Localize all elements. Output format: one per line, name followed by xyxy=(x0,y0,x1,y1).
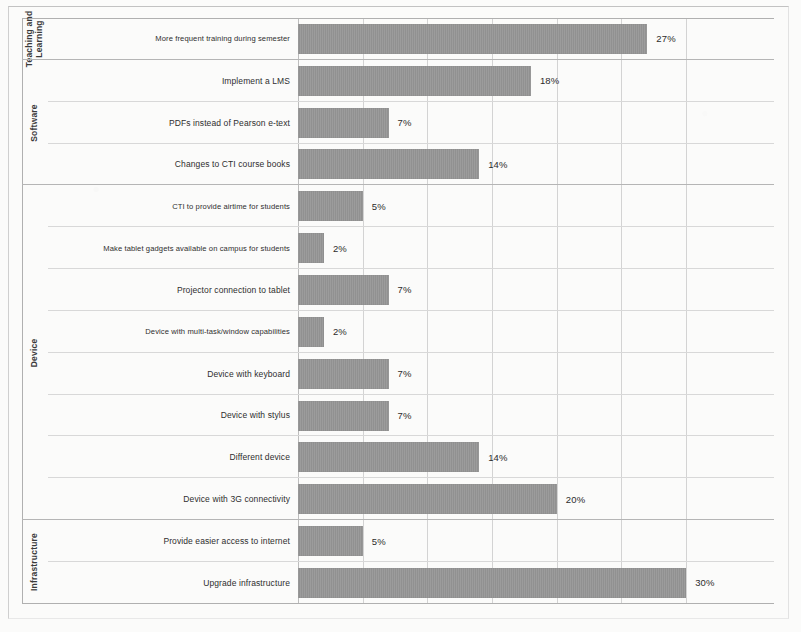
bar-cell: 7% xyxy=(298,353,774,395)
category-label-cell: Upgrade infrastructure xyxy=(48,562,298,604)
chart-row: SoftwareImplement a LMS18% xyxy=(22,60,774,102)
bar xyxy=(298,317,324,347)
bar-cell: 27% xyxy=(298,18,774,60)
bar-cell: 30% xyxy=(298,562,774,604)
category-label-cell: Projector connection to tablet xyxy=(48,269,298,311)
bar-cell: 14% xyxy=(298,436,774,478)
category-label: Projector connection to tablet xyxy=(177,285,290,295)
bar xyxy=(298,568,686,598)
bar-cell: 20% xyxy=(298,478,774,520)
category-label-cell: Device with keyboard xyxy=(48,353,298,395)
category-label: Provide easier access to internet xyxy=(163,536,290,546)
bar xyxy=(298,233,324,263)
group-column-spacer xyxy=(22,102,48,144)
bar-cell: 7% xyxy=(298,395,774,437)
bar xyxy=(298,526,363,556)
category-label: CTI to provide airtime for students xyxy=(172,202,290,211)
bar-cell: 7% xyxy=(298,269,774,311)
category-label-cell: Device with 3G connectivity xyxy=(48,478,298,520)
bar-value-label: 14% xyxy=(488,159,508,170)
category-label-cell: PDFs instead of Pearson e-text xyxy=(48,102,298,144)
bar xyxy=(298,66,531,96)
group-column-spacer xyxy=(22,478,48,520)
category-label: Device with keyboard xyxy=(207,369,290,379)
horizontal-bar-chart: Teaching and LearningMore frequent train… xyxy=(22,18,774,614)
category-label-cell: Make tablet gadgets available on campus … xyxy=(48,227,298,269)
chart-row: Device with stylus7% xyxy=(22,395,774,437)
bar xyxy=(298,359,389,389)
category-label: Implement a LMS xyxy=(222,76,290,86)
bar xyxy=(298,442,479,472)
bar-cell: 14% xyxy=(298,144,774,186)
bar-value-label: 30% xyxy=(695,577,715,588)
chart-row: Projector connection to tablet7% xyxy=(22,269,774,311)
chart-row: InfrastructureProvide easier access to i… xyxy=(22,520,774,562)
category-label-cell: More frequent training during semester xyxy=(48,18,298,60)
bar-value-label: 7% xyxy=(398,284,412,295)
bar xyxy=(298,149,479,179)
group-column-spacer xyxy=(22,144,48,186)
bar-value-label: 18% xyxy=(540,75,560,86)
chart-row: Device with keyboard7% xyxy=(22,353,774,395)
group-column-spacer: Software xyxy=(22,60,48,102)
category-label: Changes to CTI course books xyxy=(175,159,290,169)
category-label: Different device xyxy=(229,452,290,462)
category-label-cell: Different device xyxy=(48,436,298,478)
bar-cell: 2% xyxy=(298,227,774,269)
bar xyxy=(298,275,389,305)
chart-row: Teaching and LearningMore frequent train… xyxy=(22,18,774,60)
category-label: Device with 3G connectivity xyxy=(183,494,290,504)
bar-cell: 5% xyxy=(298,520,774,562)
group-column-spacer xyxy=(22,353,48,395)
bar-value-label: 7% xyxy=(398,410,412,421)
group-column-spacer: Device xyxy=(22,185,48,227)
group-column-spacer xyxy=(22,436,48,478)
bar xyxy=(298,401,389,431)
bar-value-label: 5% xyxy=(372,536,386,547)
category-label-cell: CTI to provide airtime for students xyxy=(48,185,298,227)
group-column-spacer xyxy=(22,311,48,353)
category-label-cell: Provide easier access to internet xyxy=(48,520,298,562)
category-label: Device with stylus xyxy=(221,410,290,420)
bar-value-label: 7% xyxy=(398,117,412,128)
bar-value-label: 7% xyxy=(398,368,412,379)
chart-row: Changes to CTI course books14% xyxy=(22,144,774,186)
chart-row: Upgrade infrastructure30% xyxy=(22,562,774,604)
chart-row: Device with 3G connectivity20% xyxy=(22,478,774,520)
bar-value-label: 2% xyxy=(333,326,347,337)
chart-row: PDFs instead of Pearson e-text7% xyxy=(22,102,774,144)
bar-cell: 7% xyxy=(298,102,774,144)
bar-cell: 18% xyxy=(298,60,774,102)
category-label: Device with multi-task/window capabiliti… xyxy=(145,327,290,336)
chart-row: Device with multi-task/window capabiliti… xyxy=(22,311,774,353)
category-label: Make tablet gadgets available on campus … xyxy=(103,244,290,253)
category-label-cell: Changes to CTI course books xyxy=(48,144,298,186)
bar-value-label: 5% xyxy=(372,201,386,212)
category-label: Upgrade infrastructure xyxy=(203,578,290,588)
category-label-cell: Device with multi-task/window capabiliti… xyxy=(48,311,298,353)
category-label: More frequent training during semester xyxy=(155,34,290,43)
bar-value-label: 14% xyxy=(488,452,508,463)
group-label-cell: Teaching and Learning xyxy=(22,18,48,60)
bar xyxy=(298,191,363,221)
bar-value-label: 20% xyxy=(566,494,586,505)
bar-cell: 5% xyxy=(298,185,774,227)
bar-value-label: 27% xyxy=(656,33,676,44)
group-column-spacer xyxy=(22,227,48,269)
bar-cell: 2% xyxy=(298,311,774,353)
chart-row: Different device14% xyxy=(22,436,774,478)
group-column-spacer xyxy=(22,395,48,437)
category-label-cell: Implement a LMS xyxy=(48,60,298,102)
group-column-spacer: Teaching and Learning xyxy=(22,18,48,60)
chart-row: Make tablet gadgets available on campus … xyxy=(22,227,774,269)
chart-row: DeviceCTI to provide airtime for student… xyxy=(22,185,774,227)
category-label: PDFs instead of Pearson e-text xyxy=(169,118,290,128)
bar xyxy=(298,24,647,54)
group-column-spacer xyxy=(22,562,48,604)
bar xyxy=(298,484,557,514)
category-label-cell: Device with stylus xyxy=(48,395,298,437)
group-column-spacer xyxy=(22,269,48,311)
bar xyxy=(298,108,389,138)
bar-value-label: 2% xyxy=(333,243,347,254)
chart-rows: Teaching and LearningMore frequent train… xyxy=(22,18,774,614)
